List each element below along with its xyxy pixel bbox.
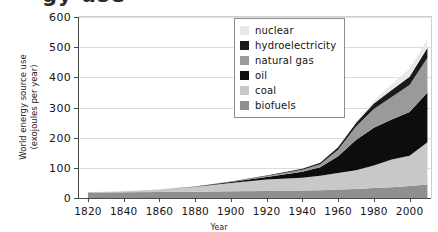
y-tick-mark	[74, 198, 79, 199]
legend-swatch-icon	[240, 86, 249, 95]
x-tick-mark	[374, 198, 375, 202]
y-tick-label: 300	[49, 101, 71, 114]
y-axis-label: World energy source use (exojoules per y…	[18, 22, 40, 192]
x-tick-label: 1840	[110, 205, 138, 217]
x-tick-label: 1880	[181, 205, 209, 217]
y-tick-label: 100	[49, 161, 71, 174]
y-axis-label-line2: (exojoules per year)	[29, 22, 40, 192]
y-tick-mark	[74, 168, 79, 169]
legend-item: coal	[240, 83, 336, 98]
x-tick-mark	[159, 198, 160, 202]
legend-item: oil	[240, 68, 336, 83]
x-tick-label: 1820	[74, 205, 102, 217]
x-tick-mark	[338, 198, 339, 202]
legend-item: hydroelectricity	[240, 38, 336, 53]
y-tick-mark	[74, 138, 79, 139]
legend-swatch-icon	[240, 26, 249, 35]
x-tick-label: 1980	[360, 205, 388, 217]
y-tick-label: 600	[49, 11, 71, 24]
legend-swatch-icon	[240, 101, 249, 110]
legend-label: hydroelectricity	[255, 40, 336, 51]
x-tick-label: 1860	[146, 205, 174, 217]
cropped-title: gy use	[42, 0, 126, 7]
y-tick-mark	[74, 108, 79, 109]
legend-swatch-icon	[240, 56, 249, 65]
x-tick-label: 2000	[396, 205, 424, 217]
x-tick-label: 1920	[253, 205, 281, 217]
x-tick-mark	[231, 198, 232, 202]
legend: nuclearhydroelectricitynatural gasoilcoa…	[234, 18, 345, 118]
legend-label: biofuels	[255, 100, 296, 111]
legend-label: coal	[255, 85, 276, 96]
y-tick-label: 400	[49, 71, 71, 84]
y-tick-label: 0	[64, 192, 71, 205]
legend-label: nuclear	[255, 25, 294, 36]
x-tick-mark	[124, 198, 125, 202]
plot-right-border	[431, 16, 432, 198]
legend-label: natural gas	[255, 55, 314, 66]
x-tick-mark	[267, 198, 268, 202]
x-tick-mark	[410, 198, 411, 202]
legend-item: natural gas	[240, 53, 336, 68]
legend-swatch-icon	[240, 71, 249, 80]
x-tick-label: 1960	[324, 205, 352, 217]
x-tick-label: 1940	[289, 205, 317, 217]
x-tick-mark	[88, 198, 89, 202]
x-axis-label: Year	[0, 223, 438, 232]
x-tick-mark	[195, 198, 196, 202]
y-tick-mark	[74, 47, 79, 48]
x-tick-label: 1900	[217, 205, 245, 217]
legend-item: biofuels	[240, 98, 336, 113]
y-tick-mark	[74, 77, 79, 78]
y-tick-label: 200	[49, 131, 71, 144]
x-tick-mark	[302, 198, 303, 202]
legend-swatch-icon	[240, 41, 249, 50]
legend-label: oil	[255, 70, 267, 81]
legend-item: nuclear	[240, 23, 336, 38]
y-tick-mark	[74, 17, 79, 18]
chart-page: gy use World energy source use (exojoule…	[0, 0, 438, 232]
y-axis-label-line1: World energy source use	[18, 54, 28, 159]
y-tick-label: 500	[49, 41, 71, 54]
